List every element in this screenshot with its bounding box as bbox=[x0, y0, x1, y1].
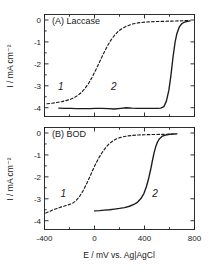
ytick-label: -1 bbox=[34, 38, 42, 47]
figure-background bbox=[0, 0, 212, 275]
ytick-label: -4 bbox=[34, 104, 42, 113]
chart-svg: 0-1-2-3-4 (A) Laccase 1 2 I / mA cm⁻² 0-… bbox=[0, 0, 212, 275]
ytick-label: -4 bbox=[34, 217, 42, 226]
ytick-label: -3 bbox=[34, 195, 42, 204]
panel-b-ylabel: I / mA cm⁻² bbox=[5, 157, 15, 200]
ytick-label: 0 bbox=[37, 16, 42, 25]
panel-a-series-1-label: 1 bbox=[58, 81, 64, 92]
panel-b-series-1-label: 1 bbox=[60, 188, 66, 199]
panel-a-series-2-label: 2 bbox=[110, 81, 117, 92]
xtick-label: 0 bbox=[92, 234, 97, 243]
ytick-label: -2 bbox=[34, 60, 42, 69]
ytick-label: -1 bbox=[34, 151, 42, 160]
ytick-label: -3 bbox=[34, 82, 42, 91]
xtick-label: 800 bbox=[188, 234, 202, 243]
figure-container: 0-1-2-3-4 (A) Laccase 1 2 I / mA cm⁻² 0-… bbox=[0, 0, 212, 275]
panel-b-title: (B) BOD bbox=[52, 129, 87, 139]
x-axis-label: E / mV vs. Ag|AgCl bbox=[83, 250, 155, 260]
panel-a-ylabel: I / mA cm⁻² bbox=[5, 44, 15, 87]
panel-b-series-2-label: 2 bbox=[151, 188, 158, 199]
xtick-label: -400 bbox=[36, 234, 53, 243]
ytick-label: 0 bbox=[37, 129, 42, 138]
ytick-label: -2 bbox=[34, 173, 42, 182]
xtick-label: 400 bbox=[138, 234, 152, 243]
panel-a-title: (A) Laccase bbox=[52, 16, 100, 26]
